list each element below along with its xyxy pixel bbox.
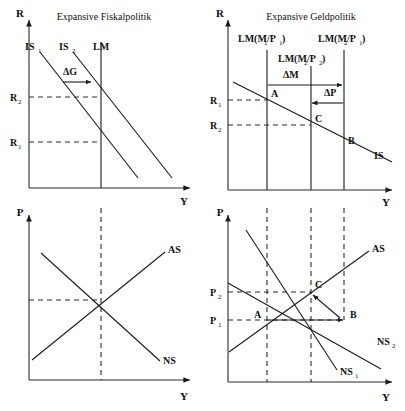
- panel-top-left: Expansive Fiskalpolitik R Y IS 1 IS 2 LM: [10, 7, 190, 207]
- svg-text:1: 1: [355, 372, 359, 380]
- svg-text:IS: IS: [59, 41, 69, 52]
- point-label-a-top: A: [271, 88, 279, 99]
- svg-text:NS: NS: [377, 336, 390, 347]
- tick-r2: R 2: [10, 92, 22, 106]
- tick-r1: R 1: [10, 137, 22, 151]
- label-as-right: AS: [372, 243, 385, 254]
- point-label-b-bottom: B: [350, 309, 357, 320]
- tick-p2-right: P 2: [210, 287, 222, 301]
- label-delta-g: ΔG: [63, 66, 77, 77]
- bottom-right-x-axis-label: Y: [382, 391, 390, 403]
- svg-text:1: 1: [18, 143, 22, 151]
- label-ns2-right: NS 2: [377, 336, 396, 350]
- svg-text:NS: NS: [340, 366, 353, 377]
- curve-ns1-right: [246, 230, 337, 370]
- curve-as-left: [32, 252, 165, 360]
- svg-text:/P: /P: [346, 33, 356, 44]
- svg-text:2: 2: [218, 293, 222, 301]
- panel-top-left-title: Expansive Fiskalpolitik: [57, 11, 152, 22]
- tick-r1-right: R 1: [210, 95, 222, 109]
- is-lm-figure-root: Expansive Fiskalpolitik R Y IS 1 IS 2 LM: [0, 0, 405, 411]
- label-lm-m1-p1: LM(M 1 /P 1 ): [238, 33, 285, 47]
- svg-text:1: 1: [38, 47, 42, 55]
- label-ns-left: NS: [163, 355, 176, 366]
- point-label-c-top: C: [315, 113, 322, 124]
- svg-text:R: R: [10, 137, 18, 148]
- svg-text:2: 2: [72, 47, 76, 55]
- panel-top-right: Expansive Geldpolitik R Y LM(M 1 /P 1 ) …: [210, 7, 392, 208]
- curve-is1: [40, 52, 138, 178]
- panel-top-right-title: Expansive Geldpolitik: [266, 11, 356, 22]
- top-left-y-axis-label: R: [16, 7, 25, 19]
- svg-text:1: 1: [218, 101, 222, 109]
- label-lm-m2-p2: LM(M 2 /P 2 ): [278, 53, 325, 67]
- svg-text:/P: /P: [306, 53, 316, 64]
- svg-text:2: 2: [18, 98, 22, 106]
- svg-text:R: R: [210, 95, 218, 106]
- svg-text:2: 2: [218, 126, 222, 134]
- point-label-a-bottom: A: [254, 309, 262, 320]
- svg-text:P: P: [210, 315, 216, 326]
- panel-bottom-right: P Y AS NS 1 NS 2: [210, 206, 396, 403]
- tick-p1-right: P 1: [210, 315, 222, 329]
- svg-text:IS: IS: [25, 41, 35, 52]
- label-lm-m2-p1: LM(M 2 /P 1 ): [318, 33, 365, 47]
- top-right-x-axis-label: Y: [382, 196, 390, 208]
- svg-text:): ): [322, 53, 325, 65]
- label-is-right: IS: [374, 150, 384, 161]
- curve-as-right: [229, 251, 369, 352]
- top-left-x-axis-label: Y: [180, 195, 188, 207]
- label-ns1-right: NS 1: [340, 366, 359, 380]
- svg-text:/P: /P: [266, 33, 276, 44]
- bottom-left-x-axis-label: Y: [180, 390, 188, 402]
- svg-text:1: 1: [218, 321, 222, 329]
- label-as-left: AS: [168, 244, 181, 255]
- svg-text:): ): [282, 33, 285, 45]
- label-is2: IS 2: [59, 41, 76, 55]
- point-label-c-bottom: C: [315, 279, 322, 290]
- svg-text:2: 2: [392, 342, 396, 350]
- label-delta-m: ΔM: [283, 69, 299, 80]
- point-label-b-top: B: [348, 135, 355, 146]
- bottom-left-y-axis-label: P: [17, 206, 24, 218]
- svg-text:R: R: [210, 120, 218, 131]
- label-is1: IS 1: [25, 41, 42, 55]
- top-right-y-axis-label: R: [216, 7, 225, 19]
- arrow-b-to-c: [313, 295, 340, 318]
- curve-is: [233, 82, 392, 162]
- curve-ns2-right: [228, 283, 381, 369]
- label-lm: LM: [93, 41, 110, 52]
- economics-diagram-svg: Expansive Fiskalpolitik R Y IS 1 IS 2 LM: [0, 0, 405, 411]
- panel-bottom-left: P Y AS NS: [17, 206, 190, 402]
- svg-text:): ): [362, 33, 365, 45]
- svg-text:P: P: [210, 287, 216, 298]
- label-delta-p: ΔP: [324, 87, 336, 98]
- svg-text:R: R: [10, 92, 18, 103]
- bottom-right-y-axis-label: P: [217, 206, 224, 218]
- tick-r2-right: R 2: [210, 120, 222, 134]
- curve-is2: [73, 52, 172, 178]
